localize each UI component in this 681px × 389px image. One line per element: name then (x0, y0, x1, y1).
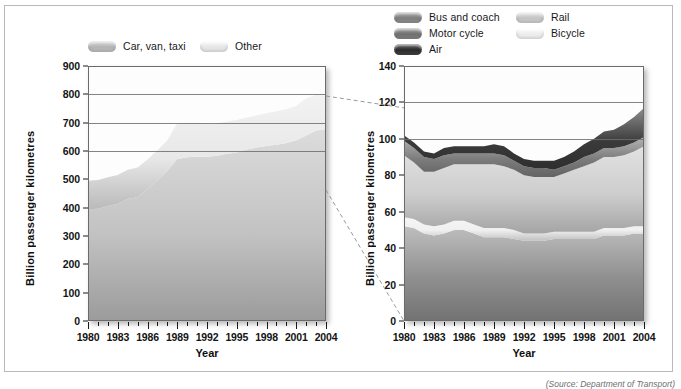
chart-right-modes-breakdown: Billion passenger kilometres 02040608010… (340, 0, 681, 389)
x-tick-mark (494, 322, 495, 329)
x-tick-mark (326, 322, 327, 329)
x-tick-mark (414, 322, 415, 326)
y-tick-label: 100 (362, 133, 396, 145)
x-tick-label: 1986 (136, 331, 159, 343)
y-tick-label: 200 (46, 258, 80, 270)
x-tick-label: 2001 (603, 331, 626, 343)
y-tick-label: 20 (362, 279, 396, 291)
x-tick-mark (88, 322, 89, 329)
x-tick-label: 1992 (196, 331, 219, 343)
x-tick-mark (474, 322, 475, 326)
x-tick-mark (187, 322, 188, 326)
y-tick-label: 300 (46, 230, 80, 242)
x-tick-mark (267, 322, 268, 329)
y-tick-label: 140 (362, 60, 396, 72)
y-tick-label: 120 (362, 96, 396, 108)
x-tick-mark (237, 322, 238, 329)
y-tick-label: 900 (46, 60, 80, 72)
left-plot-area (88, 66, 326, 321)
x-tick-mark (128, 322, 129, 326)
x-tick-mark (464, 322, 465, 329)
x-tick-mark (296, 322, 297, 329)
x-tick-mark (167, 322, 168, 326)
y-tick-label: 0 (46, 315, 80, 327)
gridline-700 (88, 123, 326, 124)
chart-left-total-passenger-km: Billion passenger kilometres 01002003004… (0, 0, 340, 389)
x-tick-mark (108, 322, 109, 326)
x-tick-mark (574, 322, 575, 326)
x-tick-mark (306, 322, 307, 326)
y-tick-label: 700 (46, 117, 80, 129)
source-note: (Source: Department of Transport) (546, 379, 675, 389)
y-tick-label: 500 (46, 173, 80, 185)
y-tick-label: 400 (46, 202, 80, 214)
x-tick-label: 1980 (77, 331, 100, 343)
x-tick-mark (604, 322, 605, 326)
x-tick-mark (644, 322, 645, 329)
x-tick-mark (564, 322, 565, 326)
x-tick-mark (177, 322, 178, 329)
gridline-100 (404, 139, 644, 140)
x-tick-mark (148, 322, 149, 329)
y-tick-label: 0 (362, 315, 396, 327)
left-x-axis-title: Year (88, 347, 326, 359)
x-tick-mark (584, 322, 585, 329)
x-tick-mark (404, 322, 405, 329)
gridline-800 (88, 94, 326, 95)
x-tick-mark (534, 322, 535, 326)
x-tick-mark (504, 322, 505, 326)
x-tick-mark (544, 322, 545, 326)
x-tick-mark (197, 322, 198, 326)
x-tick-mark (424, 322, 425, 326)
y-tick-label: 100 (46, 287, 80, 299)
figure-root: Car, van, taxi Other Bus and coach Motor… (0, 0, 681, 389)
gridline-120 (404, 102, 644, 103)
x-tick-mark (276, 322, 277, 326)
x-tick-mark (614, 322, 615, 329)
x-tick-mark (524, 322, 525, 329)
x-tick-mark (594, 322, 595, 326)
x-tick-mark (634, 322, 635, 326)
x-tick-mark (207, 322, 208, 329)
right-plot-area (404, 66, 644, 321)
x-tick-mark (217, 322, 218, 326)
right-x-axis-title: Year (404, 347, 644, 359)
x-tick-mark (138, 322, 139, 326)
x-tick-label: 1995 (543, 331, 566, 343)
x-tick-mark (434, 322, 435, 329)
x-tick-mark (157, 322, 158, 326)
x-tick-label: 2004 (633, 331, 656, 343)
x-tick-label: 1989 (483, 331, 506, 343)
x-tick-label: 1980 (393, 331, 416, 343)
left-y-axis-title: Billion passenger kilometres (24, 116, 36, 286)
x-tick-mark (444, 322, 445, 326)
x-tick-label: 1986 (453, 331, 476, 343)
x-tick-label: 2004 (315, 331, 338, 343)
x-tick-mark (554, 322, 555, 329)
y-tick-label: 600 (46, 145, 80, 157)
x-tick-label: 2001 (285, 331, 308, 343)
y-tick-label: 80 (362, 169, 396, 181)
x-tick-label: 1989 (166, 331, 189, 343)
x-tick-mark (98, 322, 99, 326)
x-tick-label: 1992 (513, 331, 536, 343)
x-tick-mark (484, 322, 485, 326)
x-tick-mark (257, 322, 258, 326)
x-tick-label: 1998 (573, 331, 596, 343)
x-tick-mark (247, 322, 248, 326)
x-tick-mark (118, 322, 119, 329)
y-tick-label: 60 (362, 206, 396, 218)
x-tick-mark (286, 322, 287, 326)
y-tick-label: 800 (46, 88, 80, 100)
x-tick-label: 1995 (225, 331, 248, 343)
x-tick-mark (227, 322, 228, 326)
y-tick-label: 40 (362, 242, 396, 254)
x-tick-mark (514, 322, 515, 326)
x-tick-mark (454, 322, 455, 326)
gridline-600 (88, 151, 326, 152)
x-tick-label: 1983 (106, 331, 129, 343)
x-tick-mark (624, 322, 625, 326)
x-tick-label: 1998 (255, 331, 278, 343)
x-tick-mark (316, 322, 317, 326)
x-tick-label: 1983 (423, 331, 446, 343)
